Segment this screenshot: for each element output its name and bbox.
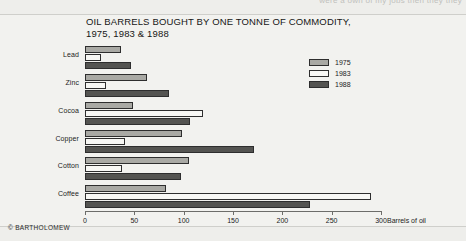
x-axis-tick-label: 150 xyxy=(227,217,239,224)
category-label: Zinc xyxy=(65,79,79,86)
category-label: Lead xyxy=(63,51,79,58)
bar-group: Cotton xyxy=(85,157,381,183)
bar-coffee-1983 xyxy=(85,193,371,200)
category-label: Cotton xyxy=(58,162,79,169)
x-axis-tick xyxy=(233,211,234,215)
bar-lead-1988 xyxy=(85,62,131,69)
x-axis-tick xyxy=(332,211,333,215)
bar-cocoa-1988 xyxy=(85,118,190,125)
x-axis-tick xyxy=(282,211,283,215)
legend-swatch-1988 xyxy=(309,81,329,88)
x-axis-tick-label: 0 xyxy=(83,217,87,224)
legend-label-1983: 1983 xyxy=(335,70,351,77)
x-axis-tick xyxy=(85,211,86,215)
bar-lead-1983 xyxy=(85,54,101,61)
scanned-page: were a own of my jobs then they they OIL… xyxy=(0,0,466,241)
x-axis-tick xyxy=(184,211,185,215)
bar-zinc-1988 xyxy=(85,90,169,97)
bar-cocoa-1975 xyxy=(85,102,133,109)
bar-cotton-1988 xyxy=(85,173,181,180)
bar-lead-1975 xyxy=(85,46,121,53)
x-axis-tick-label: 300 xyxy=(375,217,387,224)
bar-cocoa-1983 xyxy=(85,110,203,117)
chart-legend: 197519831988 xyxy=(309,58,351,91)
legend-item-1975: 1975 xyxy=(309,58,351,67)
publisher-credit: © BARTHOLOMEW xyxy=(8,224,70,231)
bar-coffee-1988 xyxy=(85,201,310,208)
legend-swatch-1983 xyxy=(309,70,329,77)
x-axis-tick-label: 50 xyxy=(130,217,138,224)
legend-label-1988: 1988 xyxy=(335,81,351,88)
bar-group: Cocoa xyxy=(85,102,381,128)
legend-label-1975: 1975 xyxy=(335,59,351,66)
bar-copper-1983 xyxy=(85,138,125,145)
bar-group: Copper xyxy=(85,130,381,156)
bar-cotton-1975 xyxy=(85,157,189,164)
x-axis-tick xyxy=(381,211,382,215)
legend-item-1988: 1988 xyxy=(309,80,351,89)
x-axis-tick xyxy=(134,211,135,215)
bar-copper-1988 xyxy=(85,146,254,153)
legend-swatch-1975 xyxy=(309,59,329,66)
bar-coffee-1975 xyxy=(85,185,166,192)
bar-zinc-1983 xyxy=(85,82,106,89)
category-label: Copper xyxy=(55,135,79,142)
x-axis-tick-label: 250 xyxy=(326,217,338,224)
bar-cotton-1983 xyxy=(85,165,122,172)
chart-title: OIL BARRELS BOUGHT BY ONE TONNE OF COMMO… xyxy=(86,16,351,39)
category-label: Cocoa xyxy=(58,107,79,114)
x-axis-tick-label: 200 xyxy=(276,217,288,224)
legend-item-1983: 1983 xyxy=(309,69,351,78)
x-axis-tick-label: 100 xyxy=(178,217,190,224)
bar-group: Coffee xyxy=(85,185,381,211)
bar-zinc-1975 xyxy=(85,74,147,81)
x-axis-title: Barrels of oil xyxy=(387,217,426,224)
cut-off-header-text: were a own of my jobs then they they xyxy=(319,0,462,5)
category-label: Coffee xyxy=(58,190,79,197)
bar-copper-1975 xyxy=(85,130,182,137)
